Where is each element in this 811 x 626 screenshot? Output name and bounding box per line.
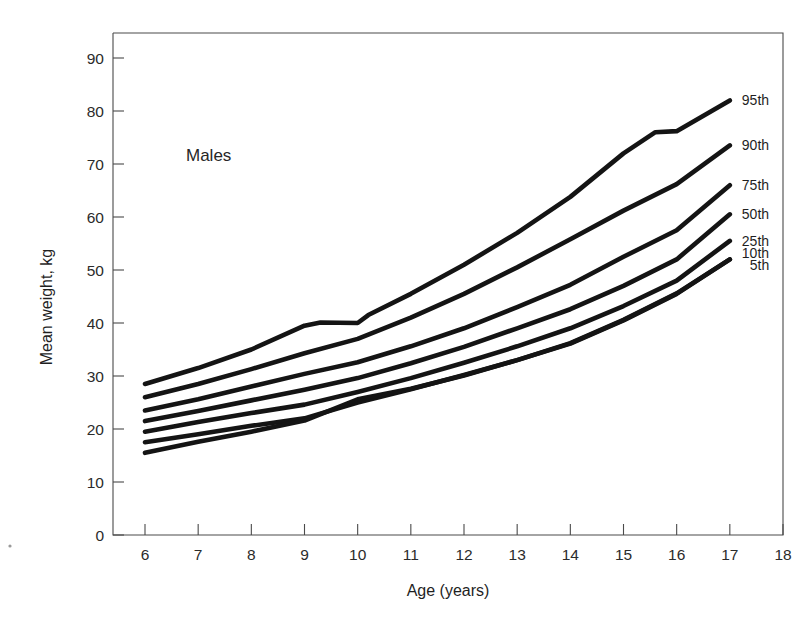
percentile-curves — [145, 100, 730, 452]
x-tick-label: 15 — [615, 546, 632, 563]
plot-frame-border — [113, 33, 783, 535]
x-axis-title: Age (years) — [407, 582, 490, 599]
scan-speck — [8, 544, 11, 547]
x-tick-label: 7 — [194, 546, 203, 563]
growth-chart-figure: 0102030405060708090 67891011121314151617… — [0, 0, 811, 626]
x-tick-label: 17 — [721, 546, 738, 563]
y-tick-label: 50 — [87, 262, 105, 279]
y-axis-title: Mean weight, kg — [38, 249, 55, 366]
legend-label-50th: 50th — [742, 206, 769, 222]
x-tick-label: 14 — [562, 546, 580, 563]
percentile-curve-95th — [145, 100, 730, 384]
y-axis-ticks: 0102030405060708090 — [87, 50, 124, 544]
x-tick-label: 12 — [455, 546, 472, 563]
x-axis-ticks: 6789101112131415161718 — [141, 524, 792, 563]
x-tick-label: 18 — [774, 546, 791, 563]
y-tick-label: 90 — [87, 50, 105, 67]
x-tick-label: 8 — [247, 546, 256, 563]
y-tick-label: 40 — [87, 315, 105, 332]
y-tick-label: 0 — [95, 527, 104, 544]
males-annotation: Males — [186, 146, 231, 165]
y-tick-label: 70 — [87, 156, 105, 173]
x-tick-label: 10 — [349, 546, 367, 563]
legend: 95th90th75th50th25th10th5th — [742, 92, 769, 273]
y-tick-label: 60 — [87, 209, 105, 226]
legend-label-75th: 75th — [742, 177, 769, 193]
x-tick-label: 11 — [403, 546, 419, 563]
x-tick-label: 13 — [509, 546, 526, 563]
x-tick-label: 9 — [300, 546, 309, 563]
y-tick-label: 10 — [87, 474, 105, 491]
legend-label-5th: 5th — [750, 257, 769, 273]
y-tick-label: 30 — [87, 368, 105, 385]
legend-label-90th: 90th — [742, 137, 769, 153]
y-tick-label: 80 — [87, 103, 105, 120]
x-tick-label: 16 — [668, 546, 685, 563]
percentile-curve-90th — [145, 145, 730, 397]
legend-label-95th: 95th — [742, 92, 769, 108]
y-tick-label: 20 — [87, 421, 105, 438]
chart-canvas: 0102030405060708090 67891011121314151617… — [0, 0, 811, 626]
x-tick-label: 6 — [141, 546, 150, 563]
